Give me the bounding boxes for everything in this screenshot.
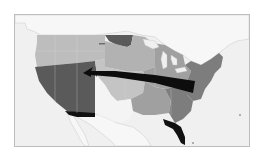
island-dot	[192, 142, 194, 144]
us-choropleth-map	[15, 15, 249, 146]
map-label-mark	[99, 43, 105, 45]
island-dot	[239, 114, 241, 116]
map-frame	[14, 14, 250, 147]
